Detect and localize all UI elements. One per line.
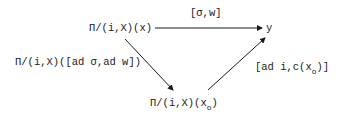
edge-right-subscript: o [312, 67, 317, 76]
node-bottom-suffix: ) [212, 97, 218, 109]
edge-label-left-diagonal: Π/(i,X)([ad σ,ad w]) [15, 56, 141, 68]
node-top-left: Π/(i,X)(x) [89, 22, 152, 34]
edge-right-suffix: )] [317, 61, 330, 73]
node-bottom-subscript: o [207, 103, 212, 112]
node-bottom-prefix: Π/(i,X)(x [150, 97, 207, 109]
edge-label-right-diagonal: [ad i,c(xo)] [255, 61, 329, 74]
node-top-right: y [266, 22, 272, 34]
edge-right-prefix: [ad i,c(x [255, 61, 312, 73]
edge-label-top: [σ,w] [190, 7, 222, 19]
node-bottom: Π/(i,X)(xo) [150, 97, 218, 110]
